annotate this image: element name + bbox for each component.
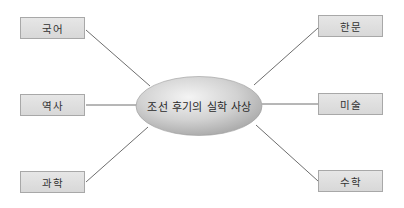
connector-suhak bbox=[256, 125, 318, 181]
center-topic-label: 조선 후기의 실학 사상 bbox=[136, 76, 263, 136]
node-gwahak: 과학 bbox=[20, 171, 85, 193]
connector-hanmun bbox=[254, 28, 318, 85]
node-yeoksa: 역사 bbox=[20, 94, 85, 116]
node-misul: 미술 bbox=[318, 93, 383, 115]
mind-map-diagram: 조선 후기의 실학 사상 국어 역사 과학 한문 미술 수학 bbox=[0, 0, 404, 208]
node-gugeo: 국어 bbox=[20, 17, 85, 39]
node-suhak: 수학 bbox=[318, 170, 383, 192]
node-hanmun: 한문 bbox=[318, 15, 383, 37]
